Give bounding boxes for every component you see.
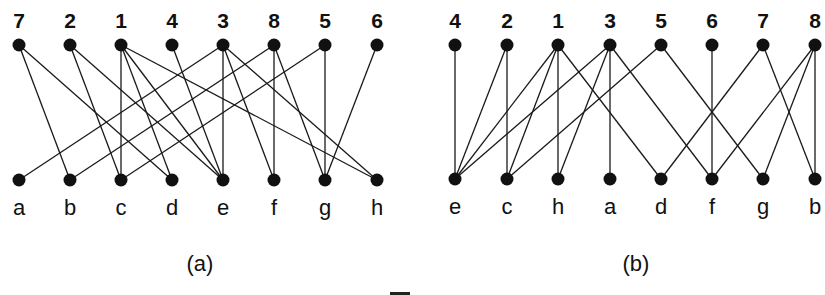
top-node-6 xyxy=(371,39,384,52)
top-node-label: 7 xyxy=(757,9,769,32)
edge-3-e xyxy=(455,45,610,179)
bottom-node-h xyxy=(371,174,384,187)
bottom-node-label: e xyxy=(217,195,229,220)
bottom-node-b xyxy=(64,174,77,187)
top-node-3 xyxy=(217,39,230,52)
top-node-3 xyxy=(604,39,617,52)
bottom-node-label: c xyxy=(116,195,127,220)
top-node-5 xyxy=(655,39,668,52)
bottom-node-b xyxy=(809,173,822,186)
edge-3-f xyxy=(610,45,712,179)
top-node-1 xyxy=(552,39,565,52)
figure-canvas: 72143856abcdefgh 42135678echadfgb (a) (b… xyxy=(0,0,825,295)
bottom-node-label: h xyxy=(552,194,564,219)
top-node-label: 5 xyxy=(655,9,667,32)
top-node-4 xyxy=(166,39,179,52)
edge-5-c xyxy=(507,45,661,179)
bottom-node-f xyxy=(706,173,719,186)
edge-4-e xyxy=(172,45,223,180)
panel-b-label: (b) xyxy=(623,251,650,276)
edge-8-f xyxy=(712,45,815,179)
panel-a-graph: 72143856abcdefgh xyxy=(13,9,384,220)
bottom-node-a xyxy=(13,174,26,187)
top-node-5 xyxy=(319,39,332,52)
bottom-node-label: a xyxy=(13,195,26,220)
bottom-node-label: d xyxy=(166,195,178,220)
top-node-label: 8 xyxy=(809,9,821,32)
top-node-8 xyxy=(809,39,822,52)
bipartite-graph-figure: 72143856abcdefgh 42135678echadfgb (a) (b… xyxy=(0,0,825,295)
bottom-node-label: e xyxy=(449,194,461,219)
bottom-node-label: d xyxy=(655,194,667,219)
panel-a-label: (a) xyxy=(187,251,214,276)
top-node-label: 6 xyxy=(706,9,718,32)
bottom-node-label: b xyxy=(809,194,821,219)
bottom-node-d xyxy=(655,173,668,186)
bottom-node-label: b xyxy=(64,195,76,220)
top-node-label: 1 xyxy=(552,9,564,32)
edge-7-b xyxy=(19,45,70,180)
top-node-label: 4 xyxy=(449,9,461,32)
bottom-node-c xyxy=(115,174,128,187)
bottom-node-label: a xyxy=(604,194,617,219)
edge-2-c xyxy=(70,45,121,180)
bottom-node-d xyxy=(166,174,179,187)
panel-b-graph: 42135678echadfgb xyxy=(449,9,822,219)
bottom-node-label: c xyxy=(502,194,513,219)
edge-1-d xyxy=(121,45,172,180)
top-node-4 xyxy=(449,39,462,52)
top-node-label: 5 xyxy=(319,9,331,32)
edge-8-g xyxy=(274,45,325,180)
top-node-label: 6 xyxy=(371,9,383,32)
bottom-node-c xyxy=(501,173,514,186)
bottom-node-label: f xyxy=(709,194,716,219)
top-node-label: 2 xyxy=(501,9,513,32)
top-node-label: 8 xyxy=(268,9,280,32)
top-node-2 xyxy=(501,39,514,52)
bottom-node-a xyxy=(604,173,617,186)
bottom-node-label: g xyxy=(319,195,331,220)
top-node-1 xyxy=(115,39,128,52)
bottom-node-label: h xyxy=(371,195,383,220)
bottom-node-label: f xyxy=(271,195,278,220)
bottom-node-e xyxy=(217,174,230,187)
top-node-label: 4 xyxy=(166,9,178,32)
edge-2-e xyxy=(455,45,507,179)
top-node-6 xyxy=(706,39,719,52)
edge-3-f xyxy=(223,45,274,180)
edge-8-b xyxy=(70,45,274,180)
top-node-7 xyxy=(757,39,770,52)
bottom-node-h xyxy=(552,173,565,186)
bottom-node-g xyxy=(319,174,332,187)
bottom-node-e xyxy=(449,173,462,186)
top-node-8 xyxy=(268,39,281,52)
bottom-node-g xyxy=(757,173,770,186)
bottom-node-label: g xyxy=(757,194,769,219)
top-node-label: 1 xyxy=(115,9,127,32)
top-node-label: 3 xyxy=(217,9,229,32)
top-node-2 xyxy=(64,39,77,52)
top-node-label: 7 xyxy=(13,9,25,32)
top-node-label: 2 xyxy=(64,9,76,32)
bottom-node-f xyxy=(268,174,281,187)
edge-6-g xyxy=(325,45,377,180)
top-node-7 xyxy=(13,39,26,52)
top-node-label: 3 xyxy=(604,9,616,32)
